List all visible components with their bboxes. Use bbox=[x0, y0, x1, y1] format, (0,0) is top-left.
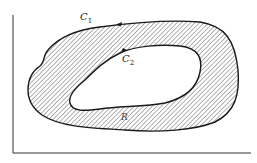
label-region-r: R bbox=[121, 113, 128, 122]
diagram-canvas bbox=[0, 0, 257, 163]
label-c2-sub: 2 bbox=[130, 59, 134, 67]
label-c1-letter: C bbox=[80, 11, 88, 22]
label-c1: C1 bbox=[80, 12, 92, 25]
region-r bbox=[28, 21, 238, 131]
label-c2: C2 bbox=[122, 54, 134, 67]
label-c2-letter: C bbox=[122, 53, 130, 64]
label-c1-sub: 1 bbox=[88, 17, 92, 25]
